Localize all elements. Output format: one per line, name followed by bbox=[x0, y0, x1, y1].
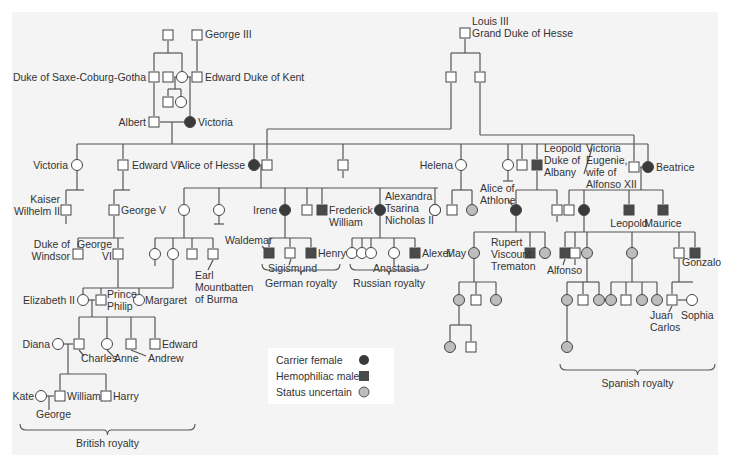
person-label: RupertViscountTrematon bbox=[491, 236, 536, 272]
b_sp-square-icon bbox=[564, 205, 574, 215]
diana-circle-icon bbox=[53, 339, 64, 350]
philip-square-icon bbox=[96, 295, 106, 305]
person-label: May bbox=[446, 247, 467, 259]
m3-circle-icon bbox=[491, 295, 502, 306]
person-label: Alice of Hesse bbox=[178, 159, 245, 171]
g3-square-icon bbox=[187, 249, 197, 259]
g2-circle-icon bbox=[168, 249, 179, 260]
m2-square-icon bbox=[471, 295, 481, 305]
person-label: JuanCarlos bbox=[650, 309, 680, 333]
s5a-circle-icon bbox=[503, 160, 514, 171]
victoria_d-circle-icon bbox=[72, 160, 83, 171]
irene-circle-icon bbox=[280, 205, 291, 216]
ath_sp-square-icon bbox=[552, 205, 562, 215]
person-label: Duke of Saxe-Coburg-Gotha bbox=[13, 71, 146, 83]
person-label: Louis IIIGrand Duke of Hesse bbox=[472, 15, 573, 39]
person-label: Edward bbox=[162, 338, 198, 350]
person-label: Leopold bbox=[610, 217, 648, 229]
elizabeth2-circle-icon bbox=[78, 295, 89, 306]
group-label: Spanish royalty bbox=[602, 377, 675, 389]
person-label: Andrew bbox=[148, 352, 184, 364]
group-brace bbox=[560, 364, 715, 375]
p1-square-icon bbox=[163, 30, 173, 40]
person-label: Edward VI bbox=[132, 159, 180, 171]
person-label: Edward Duke of Kent bbox=[205, 71, 304, 83]
person-label: Irene bbox=[253, 204, 277, 216]
status-uncertain-icon bbox=[359, 387, 369, 397]
person-label: Sigismund bbox=[268, 262, 317, 274]
person-label: Anastasia bbox=[373, 262, 419, 274]
person-label: Charles bbox=[81, 352, 117, 364]
a2-circle-icon bbox=[214, 205, 225, 216]
e3-circle-icon bbox=[594, 295, 605, 306]
p2-square-icon bbox=[163, 72, 173, 82]
charles-square-icon bbox=[74, 339, 84, 349]
s3-square-icon bbox=[338, 160, 348, 170]
group-label: British royalty bbox=[76, 437, 140, 449]
edward_kent-square-icon bbox=[192, 72, 202, 82]
person-label: Anne bbox=[114, 352, 139, 364]
person-label: Albert bbox=[119, 116, 147, 128]
group-brace bbox=[20, 424, 195, 435]
william-square-icon bbox=[55, 391, 65, 401]
pedigree-figure: George IIIDuke of Saxe-Coburg-GothaEdwar… bbox=[0, 0, 729, 467]
alice_athlone-circle-icon bbox=[511, 205, 522, 216]
e2-square-icon bbox=[578, 295, 588, 305]
kaiser-square-icon bbox=[61, 205, 71, 215]
person-label: EarlMountbattenof Burma bbox=[195, 269, 254, 305]
h2-square-icon bbox=[475, 72, 485, 82]
george5-square-icon bbox=[109, 205, 119, 215]
person-label: Kate bbox=[12, 390, 34, 402]
e4-circle-icon bbox=[606, 295, 617, 306]
person-label: PrincePhilip bbox=[107, 288, 137, 312]
waldemar-square-icon bbox=[264, 248, 274, 258]
kate-circle-icon bbox=[36, 391, 47, 402]
alice-circle-icon bbox=[249, 160, 260, 171]
carrier-female-icon bbox=[359, 355, 369, 365]
e5-square-icon bbox=[621, 295, 631, 305]
person-label: LeopoldDuke ofAlbany bbox=[544, 142, 582, 178]
mountbatten-square-icon bbox=[208, 249, 218, 259]
pedigree-chart: George IIIDuke of Saxe-Coburg-GothaEdwar… bbox=[0, 0, 729, 467]
anastasia-circle-icon bbox=[389, 248, 400, 259]
r3-circle-icon bbox=[366, 248, 377, 259]
andrew-square-icon bbox=[126, 339, 136, 349]
person-label: Gonzalo bbox=[682, 256, 721, 268]
saxe-square-icon bbox=[149, 72, 159, 82]
e1c-circle-icon bbox=[562, 342, 573, 353]
harry-square-icon bbox=[101, 391, 111, 401]
sp2-square-icon bbox=[570, 248, 580, 258]
vic_eugenie-circle-icon bbox=[579, 205, 590, 216]
beatrice_h-square-icon bbox=[629, 162, 639, 172]
hemophiliac-male-icon bbox=[359, 371, 369, 381]
p3-circle-icon bbox=[177, 72, 188, 83]
g1-circle-icon bbox=[150, 249, 161, 260]
person-label: Duke ofWindsor bbox=[31, 238, 70, 262]
person-label: Elizabeth II bbox=[23, 294, 75, 306]
albert-square-icon bbox=[149, 117, 159, 127]
group-label: German royalty bbox=[265, 277, 338, 289]
m1-circle-icon bbox=[454, 295, 465, 306]
connector-lines bbox=[47, 39, 695, 410]
p5-circle-icon bbox=[176, 97, 187, 108]
legend-uncertain-label: Status uncertain bbox=[276, 386, 352, 398]
person-label: Alice ofAthlone bbox=[480, 182, 516, 206]
sp4-circle-icon bbox=[627, 248, 638, 259]
person-label: Victoria bbox=[33, 159, 68, 171]
e1-circle-icon bbox=[562, 295, 573, 306]
edward-square-icon bbox=[150, 339, 160, 349]
r1-circle-icon bbox=[347, 248, 358, 259]
s5b-square-icon bbox=[517, 160, 527, 170]
person-label: Beatrice bbox=[656, 161, 695, 173]
person-label: Margaret bbox=[145, 294, 187, 306]
person-label: William bbox=[67, 390, 101, 402]
h_c3-circle-icon bbox=[467, 205, 478, 216]
legend-carrier-label: Carrier female bbox=[276, 354, 343, 366]
george3-square-icon bbox=[192, 30, 202, 40]
mm1-circle-icon bbox=[445, 342, 456, 353]
frederick-square-icon bbox=[317, 205, 327, 215]
e7-circle-icon bbox=[652, 295, 663, 306]
windsor-square-icon bbox=[73, 249, 83, 259]
henry-square-icon bbox=[306, 248, 316, 258]
person-label: Maurice bbox=[644, 217, 682, 229]
